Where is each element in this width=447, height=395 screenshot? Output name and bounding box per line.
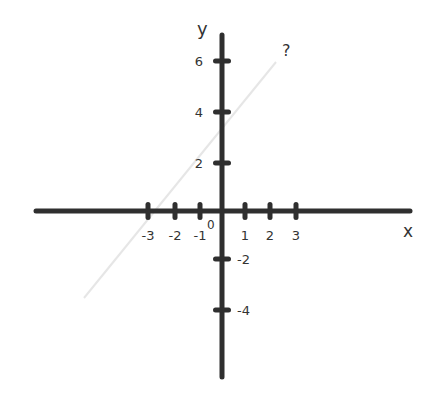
y-tick-label: -4: [237, 303, 250, 318]
x-axis-label: x: [403, 221, 413, 241]
y-tick: [213, 110, 231, 115]
x-tick: [146, 202, 151, 220]
y-tick: [213, 161, 231, 166]
x-tick: [268, 202, 273, 220]
y-tick: [213, 257, 231, 262]
x-tick-label: -2: [169, 228, 182, 243]
y-tick-label: 4: [195, 105, 203, 120]
y-tick-label: 6: [195, 54, 203, 69]
x-tick-label: -1: [194, 228, 207, 243]
x-tick: [173, 202, 178, 220]
x-tick-label: 3: [292, 228, 300, 243]
line-label: ?: [282, 41, 291, 60]
origin-label: 0: [207, 218, 215, 232]
x-tick: [243, 202, 248, 220]
y-tick: [213, 59, 231, 64]
x-tick-label: 2: [266, 228, 274, 243]
y-tick-label: -2: [237, 252, 250, 267]
x-tick: [294, 202, 299, 220]
y-tick: [213, 308, 231, 313]
y-tick-label: 2: [195, 156, 203, 171]
coordinate-plane: -3-2-1123 642-2-4 y x 0 ?: [0, 0, 447, 395]
x-tick: [198, 202, 203, 220]
x-tick-label: -3: [142, 228, 155, 243]
y-axis-label: y: [197, 18, 208, 39]
x-tick-label: 1: [241, 228, 249, 243]
